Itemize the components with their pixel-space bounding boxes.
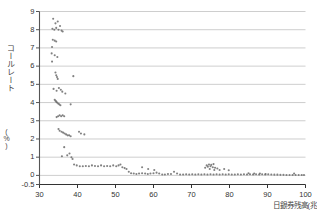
data-point — [57, 29, 59, 31]
data-point — [54, 71, 56, 73]
data-point — [57, 20, 59, 22]
data-point — [219, 169, 221, 171]
y-axis-unit-text: (%) — [3, 128, 10, 149]
data-point — [117, 164, 119, 166]
data-point — [267, 173, 269, 175]
data-point — [216, 173, 218, 175]
data-point — [59, 130, 61, 132]
data-point — [261, 173, 263, 175]
y-tick-label: 2 — [13, 135, 35, 143]
data-point — [240, 173, 242, 175]
data-point — [161, 173, 163, 175]
data-point — [61, 155, 63, 157]
data-point — [216, 167, 218, 169]
data-point — [133, 173, 135, 175]
data-point — [119, 163, 121, 165]
data-point — [147, 173, 149, 175]
data-point — [179, 173, 181, 175]
data-point — [206, 173, 208, 175]
data-point — [128, 171, 130, 173]
data-point — [203, 173, 205, 175]
data-point — [225, 173, 227, 175]
data-point — [173, 171, 175, 173]
data-point — [52, 18, 54, 20]
data-point — [64, 92, 66, 94]
plot-area — [0, 0, 317, 213]
x-tick-label: 40 — [66, 190, 90, 199]
data-point — [85, 165, 87, 167]
data-point — [54, 22, 56, 24]
data-point — [207, 166, 209, 168]
data-point — [285, 174, 287, 176]
data-point — [55, 74, 57, 76]
data-point — [191, 173, 193, 175]
data-point — [170, 173, 172, 175]
data-point — [61, 91, 63, 93]
data-point — [185, 173, 187, 175]
data-point — [153, 169, 155, 171]
x-tick-label: 80 — [218, 190, 242, 199]
data-point — [130, 172, 132, 174]
data-point — [253, 173, 255, 175]
data-point — [298, 174, 300, 176]
data-point — [293, 173, 295, 175]
y-tick-label: 4 — [13, 99, 35, 107]
y-tick-label: 5 — [13, 80, 35, 88]
data-point — [51, 61, 53, 63]
data-point — [52, 39, 54, 41]
data-point — [158, 173, 160, 175]
data-point — [212, 173, 214, 175]
data-point — [303, 174, 305, 176]
data-point — [228, 173, 230, 175]
data-point — [56, 56, 58, 58]
x-tick-label: 60 — [142, 190, 166, 199]
data-point — [55, 41, 57, 43]
data-point — [70, 156, 72, 158]
y-tick-label: 7 — [13, 44, 35, 52]
x-tick-label: 90 — [256, 190, 280, 199]
data-point — [94, 165, 96, 167]
data-point — [149, 173, 151, 175]
data-point — [279, 174, 281, 176]
data-point — [70, 103, 72, 105]
data-point — [55, 27, 57, 29]
data-point — [301, 174, 303, 176]
data-point — [54, 54, 56, 56]
data-point — [182, 173, 184, 175]
data-point — [209, 173, 211, 175]
x-tick-label: 70 — [180, 190, 204, 199]
data-point — [204, 167, 206, 169]
data-point — [228, 169, 230, 171]
data-point — [57, 128, 59, 130]
y-tick-label: 0 — [13, 171, 35, 179]
scatter-chart: コールレート (%) -0.50123456789 30405060708090… — [0, 0, 317, 213]
data-point — [265, 173, 267, 175]
x-tick-label: 30 — [28, 190, 52, 199]
data-point — [97, 165, 99, 167]
data-point — [237, 173, 239, 175]
data-point — [124, 167, 126, 169]
data-point — [106, 165, 108, 167]
data-point — [209, 165, 211, 167]
data-point — [78, 131, 80, 133]
data-point — [276, 174, 278, 176]
data-point — [88, 165, 90, 167]
data-point — [109, 165, 111, 167]
data-point — [112, 164, 114, 166]
data-point — [53, 88, 55, 90]
data-point — [259, 173, 261, 175]
data-point — [51, 52, 53, 54]
y-tick-label: 1 — [13, 153, 35, 161]
data-point — [288, 174, 290, 176]
data-point — [125, 168, 127, 170]
data-point — [58, 87, 60, 89]
data-point — [212, 163, 214, 165]
data-point — [167, 173, 169, 175]
data-point — [60, 89, 62, 91]
y-tick-label: 8 — [13, 26, 35, 34]
data-point — [164, 173, 166, 175]
data-point — [63, 115, 65, 117]
data-point — [231, 173, 233, 175]
data-point — [63, 146, 65, 148]
data-point — [197, 173, 199, 175]
